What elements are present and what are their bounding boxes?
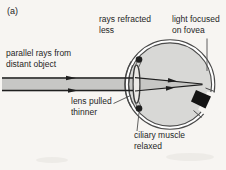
scan-smudge-right [166,153,214,161]
lens [133,65,140,103]
ciliary-muscle-bottom [136,105,143,112]
label-ciliary-muscle: ciliary muscle relaxed [134,130,185,152]
eye-accommodation-diagram: (a) parallel rays from distant object ra… [0,0,226,170]
ciliary-muscle-top [136,56,143,63]
label-rays-refracted: rays refracted less [99,14,151,36]
label-light-focused: light focused on fovea [172,14,220,36]
scan-smudge-left [36,157,68,163]
label-lens-pulled: lens pulled thinner [71,96,112,118]
label-parallel-rays: parallel rays from distant object [6,48,71,70]
panel-label: (a) [7,6,18,17]
